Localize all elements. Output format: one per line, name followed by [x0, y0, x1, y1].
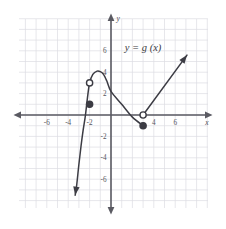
- coordinate-plane: -6-4-246642-2-4-6xy y = g (x): [0, 0, 226, 229]
- branch-right-ray: [143, 55, 187, 115]
- x-tick-label: -6: [44, 119, 50, 127]
- x-tick-label: 4: [152, 119, 156, 127]
- x-axis-label: x: [204, 118, 209, 127]
- branch-left-parabola: [75, 71, 143, 195]
- y-tick-label: -4: [101, 154, 107, 162]
- y-tick-label: -2: [101, 133, 107, 141]
- x-tick-label: -2: [87, 119, 93, 127]
- open-circle-left: [87, 80, 93, 86]
- y-axis-label: y: [116, 14, 121, 23]
- graph-figure: -6-4-246642-2-4-6xy y = g (x): [0, 0, 226, 229]
- open-circle-right: [140, 112, 146, 118]
- closed-circle-right: [140, 123, 146, 129]
- x-tick-label: -4: [65, 119, 71, 127]
- axes: [14, 14, 213, 215]
- y-tick-label: -6: [101, 176, 107, 184]
- x-tick-label: 6: [173, 119, 177, 127]
- y-tick-label: 6: [103, 47, 107, 55]
- grid-lines: [19, 19, 208, 208]
- annotations: y = g (x): [124, 42, 162, 54]
- closed-circle-left: [87, 101, 93, 107]
- tick-labels: -6-4-246642-2-4-6xy: [44, 14, 210, 184]
- function-label: y = g (x): [124, 42, 162, 54]
- y-tick-label: 2: [103, 90, 107, 98]
